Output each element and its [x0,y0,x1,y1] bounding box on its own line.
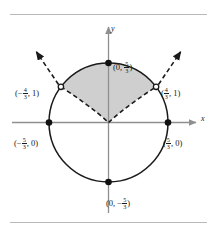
label-left-intersection-denominator: 3 [23,94,28,101]
point-left-x-intercept [46,119,53,126]
x-axis-label: x [201,115,205,123]
dashed-ray-up-left [37,52,59,85]
label-top-vertex-denominator: 3 [124,68,129,75]
point-right-x-intercept [165,119,172,126]
point-bottom-vertex [105,179,112,186]
label-left-x-intercept-open: (− [14,138,22,148]
label-left-intersection-fraction: 43 [23,87,28,101]
label-bottom-vertex-denominator: 3 [122,204,127,211]
label-right-x-intercept: (53, 0) [163,137,182,151]
label-left-intersection-open: (− [15,88,23,98]
y-axis-label: y [111,25,115,33]
point-top-vertex [105,60,112,67]
label-right-x-intercept-denominator: 3 [166,144,171,151]
graph-figure: y x (0, 53) (0, −53) (−43, 1) (43, 1) (−… [0,0,217,232]
label-right-x-intercept-fraction: 53 [166,137,171,151]
label-bottom-vertex: (0, −53) [106,197,130,211]
label-left-x-intercept-denominator: 3 [22,144,27,151]
label-right-intersection-fraction: 43 [164,87,169,101]
label-left-intersection-close: , 1) [28,88,39,98]
label-left-x-intercept: (−53, 0) [14,137,38,151]
label-left-x-intercept-fraction: 53 [22,137,27,151]
label-top-vertex-open: (0, [113,62,124,72]
label-right-intersection: (43, 1) [161,87,180,101]
label-left-intersection: (−43, 1) [15,87,39,101]
label-top-vertex: (0, 53) [113,61,132,75]
label-bottom-vertex-open: (0, − [106,198,122,208]
label-top-vertex-close: ) [129,62,132,72]
label-left-x-intercept-close: , 0) [27,138,38,148]
label-right-intersection-close: , 1) [169,88,180,98]
label-right-intersection-denominator: 3 [164,94,169,101]
label-bottom-vertex-fraction: 53 [122,197,127,211]
label-top-vertex-fraction: 53 [124,61,129,75]
label-bottom-vertex-close: ) [127,198,130,208]
dashed-ray-up-right [159,52,181,85]
point-right-intersection [153,84,158,89]
point-left-intersection [58,84,63,89]
label-right-x-intercept-close: , 0) [171,138,182,148]
